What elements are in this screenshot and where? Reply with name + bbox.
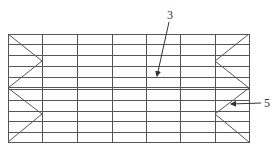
v-brace-left	[8, 34, 42, 88]
callout-label-3: 3	[167, 9, 173, 21]
callout-label-5: 5	[264, 97, 270, 109]
v-brace-right	[215, 88, 249, 142]
v-brace-right	[215, 34, 249, 88]
v-brace-left	[8, 88, 42, 142]
leader-line-5	[231, 103, 261, 104]
horizontal-grid-lines	[8, 35, 250, 143]
leader-line-3	[157, 22, 169, 76]
grid-diagram	[0, 0, 278, 154]
